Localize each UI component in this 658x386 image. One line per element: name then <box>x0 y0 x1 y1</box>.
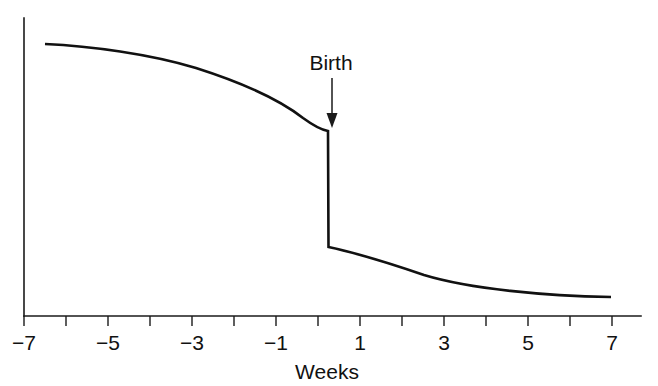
tick-label-plus-5: 5 <box>522 331 534 354</box>
chart-container: −7 −5 −3 −1 1 3 5 7 Weeks Birth <box>0 0 658 386</box>
x-axis-title: Weeks <box>295 360 359 383</box>
tick-label-plus-7: 7 <box>606 331 618 354</box>
tick-label-minus-3: −3 <box>180 331 204 354</box>
birth-annotation-label: Birth <box>309 51 352 74</box>
tick-label-minus-5: −5 <box>96 331 120 354</box>
line-chart: −7 −5 −3 −1 1 3 5 7 Weeks Birth <box>0 0 658 386</box>
tick-label-plus-1: 1 <box>354 331 366 354</box>
tick-label-minus-7: −7 <box>12 331 36 354</box>
tick-label-minus-1: −1 <box>264 331 288 354</box>
tick-label-plus-3: 3 <box>438 331 450 354</box>
